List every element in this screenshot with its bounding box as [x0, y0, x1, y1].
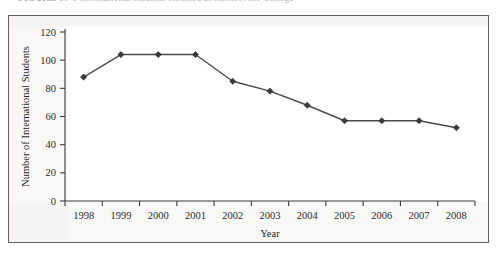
figure-border: 0204060801001201998199920002001200220032…: [8, 15, 489, 243]
data-point-2005: [341, 118, 347, 124]
x-tick-label-2004: 2004: [297, 210, 319, 221]
x-tick-label-2002: 2002: [222, 210, 243, 221]
y-tick-label-0: 0: [51, 196, 56, 207]
data-point-2006: [379, 118, 385, 124]
x-tick-label-2000: 2000: [148, 210, 169, 221]
figure-caption-label: FIGURE: [18, 0, 56, 3]
figure-screenshot: FIGURE 10-1 International students enrol…: [0, 0, 501, 258]
y-tick-label-60: 60: [46, 111, 57, 122]
data-point-1999: [118, 51, 124, 57]
data-point-2008: [453, 125, 459, 131]
y-tick-label-100: 100: [40, 55, 56, 66]
data-point-2000: [155, 51, 161, 57]
y-tick-label-120: 120: [40, 27, 56, 38]
y-tick-label-80: 80: [46, 83, 57, 94]
x-tick-label-2007: 2007: [409, 210, 430, 221]
x-tick-label-1998: 1998: [73, 210, 94, 221]
x-tick-label-2005: 2005: [334, 210, 355, 221]
y-tick-label-20: 20: [46, 167, 57, 178]
data-point-1998: [81, 74, 87, 80]
line-chart: 0204060801001201998199920002001200220032…: [9, 16, 490, 244]
chart-svg: 0204060801001201998199920002001200220032…: [9, 16, 490, 244]
data-point-2003: [267, 88, 273, 94]
figure-caption-text: International students enrolled at Mille…: [80, 0, 294, 3]
figure-caption: FIGURE 10-1 International students enrol…: [18, 0, 294, 3]
x-axis-title: Year: [260, 228, 280, 239]
x-tick-label-2001: 2001: [185, 210, 206, 221]
data-point-2007: [416, 118, 422, 124]
x-tick-label-1999: 1999: [110, 210, 131, 221]
figure-caption-strip: FIGURE 10-1 International students enrol…: [0, 0, 501, 7]
figure-caption-number: 10-1: [59, 0, 77, 3]
y-axis-title: Number of International Students: [20, 46, 31, 187]
x-tick-label-2008: 2008: [446, 210, 467, 221]
x-tick-label-2003: 2003: [260, 210, 281, 221]
data-point-2004: [304, 102, 310, 108]
y-tick-label-40: 40: [46, 139, 57, 150]
x-tick-label-2006: 2006: [371, 210, 392, 221]
